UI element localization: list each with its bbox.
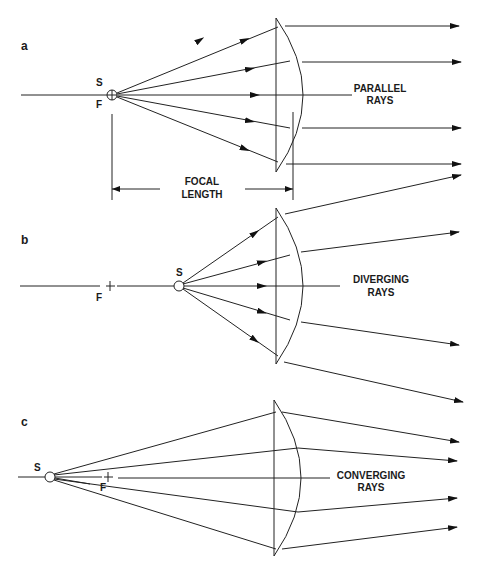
focal-length-label-line1: FOCAL (185, 176, 219, 187)
panel-label-a: a (21, 39, 28, 53)
panel-a: a S F (21, 18, 461, 200)
source-label-c: S (34, 462, 41, 473)
focus-cross-icon (104, 472, 113, 482)
incident-rays-c (54, 412, 298, 549)
source-label-a: S (96, 77, 103, 88)
focus-label-c: F (100, 482, 106, 493)
caption-a-line2: RAYS (367, 95, 394, 106)
caption-c-line2: RAYS (358, 482, 385, 493)
caption-b-line1: DIVERGING (353, 274, 409, 285)
source-point-icon (107, 90, 117, 100)
lens-ray-diagram: a S F (0, 0, 479, 576)
caption-a-line1: PARALLEL (354, 83, 407, 94)
source-point-icon (174, 281, 184, 291)
source-point-icon (45, 472, 55, 482)
source-label-b: S (176, 267, 183, 278)
panel-label-b: b (21, 233, 28, 247)
panel-c: c S F CONVERGING RAYS (18, 400, 459, 556)
panel-b: b S F (20, 175, 463, 402)
focus-label-b: F (96, 292, 102, 303)
focus-label-a: F (96, 99, 102, 110)
panel-label-c: c (21, 415, 28, 429)
caption-b-line2: RAYS (368, 287, 395, 298)
focus-cross-icon (106, 281, 115, 291)
caption-c-line1: CONVERGING (337, 470, 406, 481)
focal-length-label-line2: LENGTH (181, 189, 222, 200)
